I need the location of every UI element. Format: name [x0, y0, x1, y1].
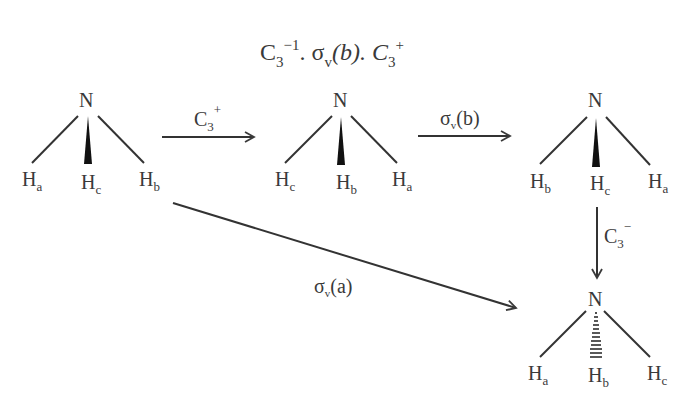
- hashed-wedge-bond: [590, 313, 602, 357]
- arrow-label-sigma-v-a: σv(a): [314, 275, 352, 299]
- h-right: Ha: [392, 168, 412, 194]
- molecule-3: N Hb Hc Ha: [530, 89, 668, 198]
- h-center: Hb: [588, 364, 609, 390]
- wedge-bond: [592, 118, 600, 167]
- bond-left: [540, 311, 586, 357]
- bond-left: [540, 117, 587, 164]
- nitrogen-atom: N: [588, 288, 602, 310]
- bond-right: [98, 116, 144, 163]
- h-left: Ha: [22, 168, 42, 194]
- bond-right: [606, 117, 650, 165]
- molecule-1: N Ha Hc Hb: [22, 89, 160, 197]
- wedge-bond: [337, 117, 345, 165]
- wedge-bond: [84, 116, 92, 164]
- title-expression: C3−1. σv(b). C3+: [260, 37, 404, 70]
- h-center: Hc: [81, 171, 101, 197]
- bond-right: [604, 311, 650, 357]
- molecule-4: N Ha Hb Hc: [528, 288, 667, 390]
- nitrogen-atom: N: [588, 89, 602, 111]
- h-left: Hb: [530, 170, 551, 196]
- h-right: Hb: [139, 168, 160, 194]
- molecule-2: N Hc Hb Ha: [275, 89, 412, 197]
- nitrogen-atom: N: [333, 89, 347, 111]
- bond-left: [32, 116, 78, 163]
- h-right: Hc: [647, 362, 667, 388]
- arrow-label-c3-minus: C3−: [604, 219, 631, 251]
- h-right: Ha: [648, 170, 668, 196]
- h-left: Hc: [275, 168, 295, 194]
- arrow-label-c3-plus: C3+: [194, 102, 221, 134]
- bond-right: [351, 116, 397, 163]
- arrow-label-sigma-v-b: σv(b): [440, 107, 480, 131]
- h-left: Ha: [528, 362, 548, 388]
- h-center: Hc: [590, 172, 610, 198]
- symmetry-operation-diagram: C3−1. σv(b). C3+ N Ha Hc Hb C3+ N Hc Hb …: [0, 0, 692, 402]
- bond-left: [285, 116, 332, 163]
- nitrogen-atom: N: [79, 89, 93, 111]
- h-center: Hb: [336, 171, 357, 197]
